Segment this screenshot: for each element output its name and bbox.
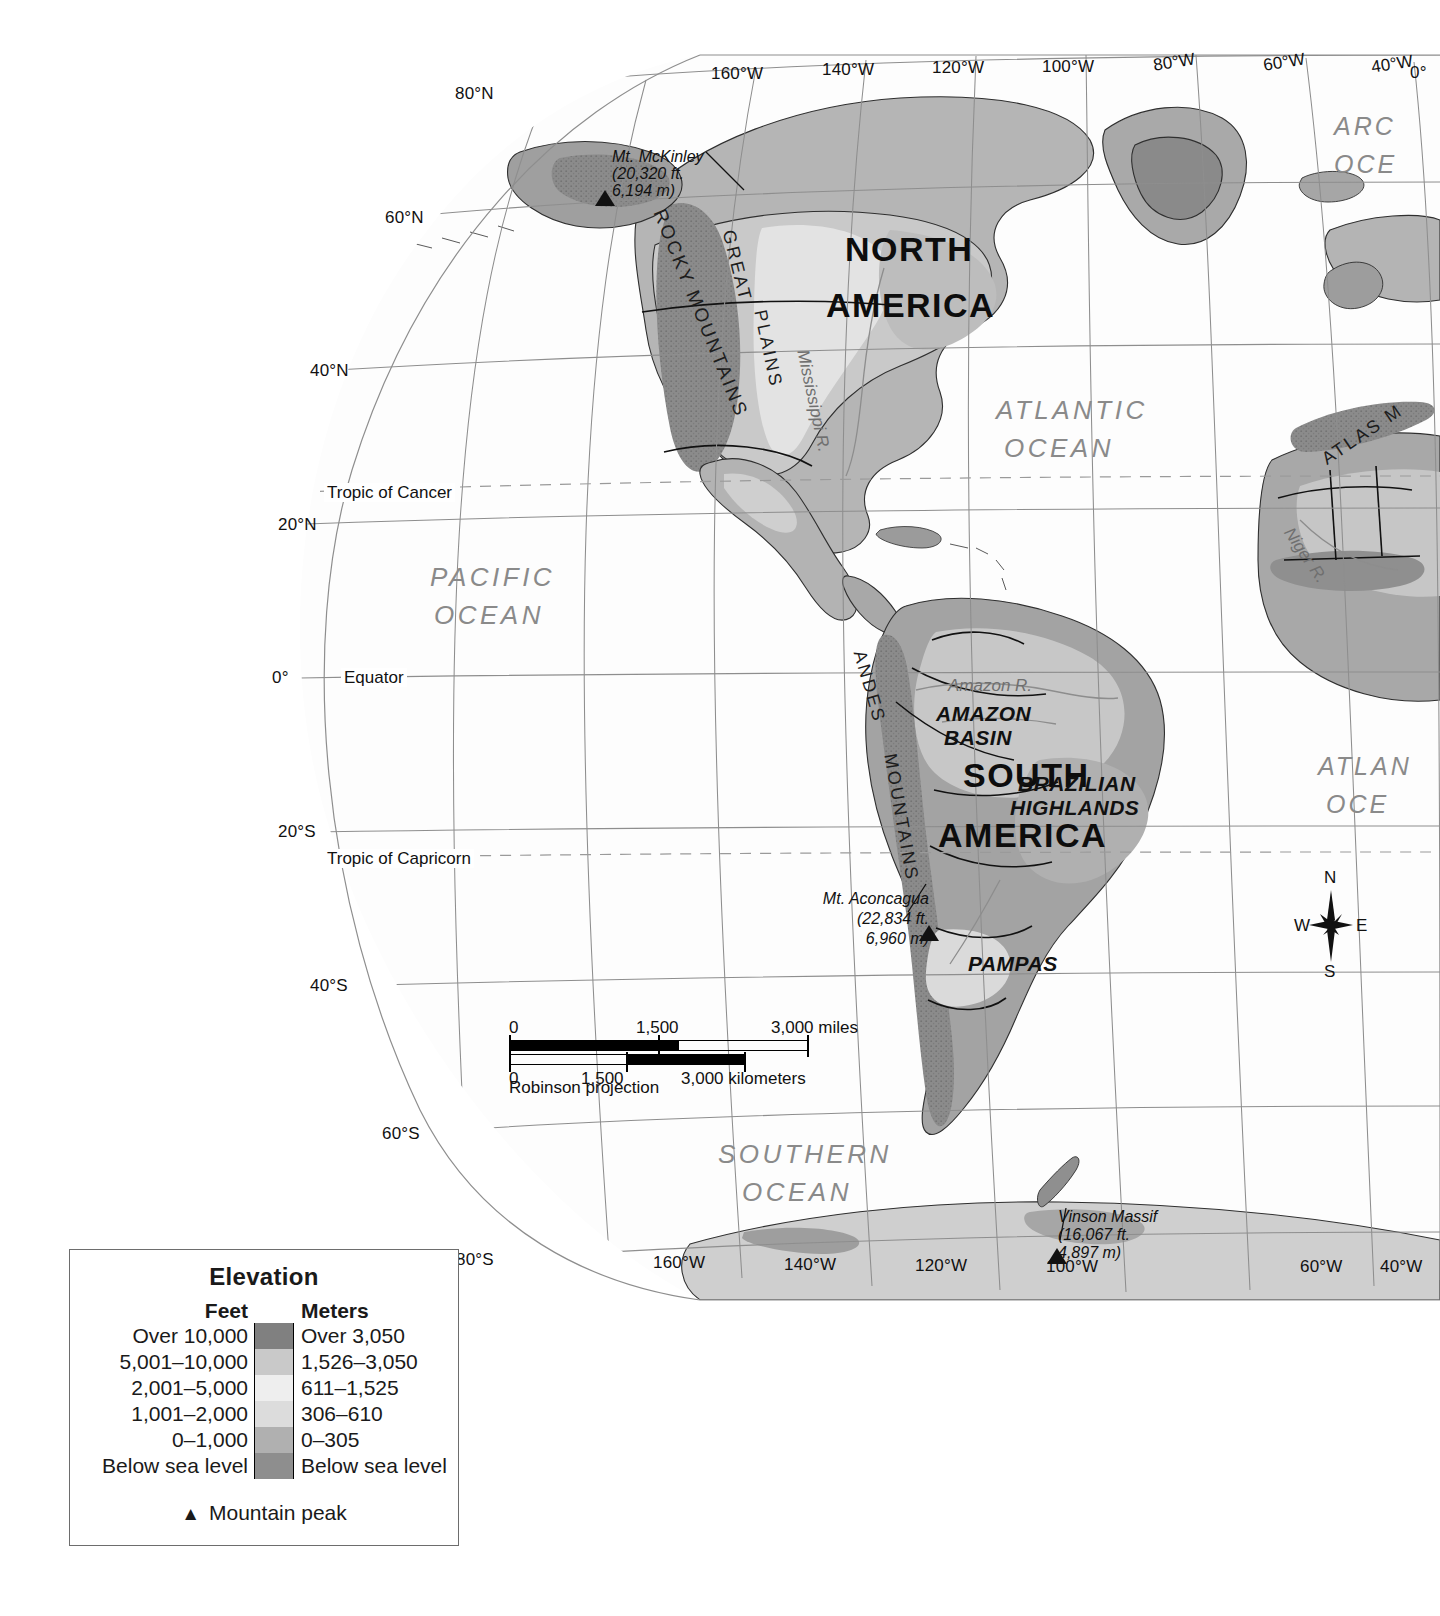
ocean-label-arctic-line1: ARC — [1334, 112, 1396, 140]
lat-label-40s: 40°S — [310, 976, 348, 995]
scale-bar-kilometers — [509, 1054, 869, 1067]
region-label-brazilian-highlands-line2: HIGHLANDS — [1010, 796, 1139, 820]
legend-row: 5,001–10,000 1,526–3,050 — [70, 1349, 458, 1375]
legend-meters-over-3050: Over 3,050 — [294, 1324, 405, 1348]
legend-feet-1001-2000: 1,001–2,000 — [70, 1402, 254, 1426]
lat-label-20n: 20°N — [278, 515, 317, 534]
lat-label-80s: 80°S — [456, 1250, 494, 1269]
scale-miles-numbers: 0 1,500 3,000 miles — [509, 1018, 869, 1038]
lon-label-bottom-160w: 160°W — [653, 1253, 705, 1272]
lon-label-top-140w: 140°W — [822, 60, 874, 79]
ocean-label-atlantic-right-line2: OCE — [1326, 790, 1389, 818]
legend-swatch-below-sea-level — [254, 1453, 294, 1479]
peak-meters-mckinley: 6,194 m) — [612, 182, 675, 200]
region-label-amazon-basin-line1: AMAZON — [936, 702, 1031, 726]
ocean-label-pacific-line1: PACIFIC — [430, 563, 555, 592]
map-canvas: 160°W 140°W 120°W 100°W 80°W 60°W 40°W 2… — [0, 0, 1440, 1616]
legend-swatch-1001-2000 — [254, 1401, 294, 1427]
legend-row: 2,001–5,000 611–1,525 — [70, 1375, 458, 1401]
legend-header-feet: Feet — [70, 1299, 254, 1323]
legend-swatch-2001-5000 — [254, 1375, 294, 1401]
legend-title: Elevation — [70, 1263, 458, 1291]
river-label-amazon: Amazon R. — [948, 676, 1032, 695]
peak-meters-vinson: 4,897 m) — [1058, 1244, 1121, 1262]
legend-meters-1526-3050: 1,526–3,050 — [294, 1350, 418, 1374]
elevation-legend: Elevation Feet Meters Over 10,000 Over 3… — [69, 1249, 459, 1546]
ocean-label-southern-line2: OCEAN — [742, 1178, 852, 1207]
legend-feet-2001-5000: 2,001–5,000 — [70, 1376, 254, 1400]
legend-meters-below-sea-level: Below sea level — [294, 1454, 447, 1478]
legend-swatch-5001-10000 — [254, 1349, 294, 1375]
ocean-label-atlantic-line1: ATLANTIC — [996, 396, 1148, 425]
legend-meters-611-1525: 611–1,525 — [294, 1376, 399, 1400]
tropic-of-cancer-label: Tropic of Cancer — [324, 483, 455, 502]
ocean-label-atlantic-right-line1: ATLAN — [1318, 752, 1412, 780]
legend-row: Below sea level Below sea level — [70, 1453, 458, 1479]
lon-label-top-120w: 120°W — [932, 58, 984, 77]
ocean-label-pacific-line2: OCEAN — [434, 601, 544, 630]
legend-feet-below-sea-level: Below sea level — [70, 1454, 254, 1478]
peak-feet-mckinley: (20,320 ft. — [612, 165, 684, 183]
legend-feet-over-10000: Over 10,000 — [70, 1324, 254, 1348]
lat-label-60n: 60°N — [385, 208, 424, 227]
peak-name-aconcagua: Mt. Aconcagua — [761, 890, 929, 908]
legend-meters-0-305: 0–305 — [294, 1428, 359, 1452]
mountain-peak-icon: ▲ — [181, 1504, 200, 1523]
peak-feet-vinson: (16,067 ft. — [1058, 1226, 1130, 1244]
legend-feet-0-1000: 0–1,000 — [70, 1428, 254, 1452]
tropic-of-capricorn-label: Tropic of Capricorn — [324, 849, 474, 868]
region-label-amazon-basin-line2: BASIN — [944, 726, 1012, 750]
compass-star-icon — [1294, 868, 1368, 980]
ocean-label-atlantic-line2: OCEAN — [1004, 434, 1114, 463]
scale-bar-miles — [509, 1040, 869, 1053]
legend-column-headers: Feet Meters — [70, 1299, 458, 1323]
ocean-label-arctic-line2: OCE — [1334, 150, 1397, 178]
continent-label-north-america: AMERICA — [826, 286, 995, 324]
peak-feet-aconcagua: (22,834 ft. — [761, 910, 929, 928]
legend-swatch-0-1000 — [254, 1427, 294, 1453]
legend-meters-306-610: 306–610 — [294, 1402, 383, 1426]
lat-label-0: 0° — [272, 668, 289, 687]
projection-note: Robinson projection — [509, 1078, 659, 1098]
legend-feet-5001-10000: 5,001–10,000 — [70, 1350, 254, 1374]
peak-meters-aconcagua: 6,960 m) — [761, 930, 929, 948]
region-label-pampas: PAMPAS — [968, 952, 1058, 976]
lat-label-80n: 80°N — [455, 84, 494, 103]
lon-label-bottom-120w: 120°W — [915, 1256, 967, 1275]
continent-label-south-america: AMERICA — [938, 816, 1107, 854]
compass-rose: N S E W — [1294, 868, 1368, 980]
lon-label-top-100w: 100°W — [1042, 57, 1094, 76]
lon-label-bottom-140w: 140°W — [784, 1255, 836, 1274]
legend-row: Over 10,000 Over 3,050 — [70, 1323, 458, 1349]
ocean-label-southern-line1: SOUTHERN — [718, 1140, 892, 1169]
continent-label-north: NORTH — [845, 230, 973, 268]
lat-label-60s: 60°S — [382, 1124, 420, 1143]
region-label-brazilian-highlands-line1: BRAZILIAN — [1018, 772, 1136, 796]
peak-name-mckinley: Mt. McKinley — [612, 148, 704, 166]
lon-label-top-0: 0° — [1410, 63, 1427, 82]
lon-label-bottom-40w: 40°W — [1380, 1257, 1423, 1276]
legend-row: 1,001–2,000 306–610 — [70, 1401, 458, 1427]
legend-header-meters: Meters — [294, 1299, 369, 1323]
lat-label-40n: 40°N — [310, 361, 349, 380]
lon-label-top-160w: 160°W — [711, 64, 763, 83]
legend-swatch-over-10000 — [254, 1323, 294, 1349]
scale-miles-end: 3,000 miles — [771, 1018, 858, 1038]
legend-mountain-peak-label: Mountain peak — [209, 1501, 347, 1525]
peak-name-vinson: Vinson Massif — [1058, 1208, 1157, 1226]
lon-label-bottom-60w: 60°W — [1300, 1257, 1343, 1276]
legend-mountain-peak-entry: ▲ Mountain peak — [70, 1501, 458, 1525]
legend-row: 0–1,000 0–305 — [70, 1427, 458, 1453]
scale-km-end: 3,000 kilometers — [681, 1069, 806, 1089]
equator-label: Equator — [341, 668, 407, 687]
lat-label-20s: 20°S — [278, 822, 316, 841]
